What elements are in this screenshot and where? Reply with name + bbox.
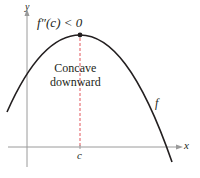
point-c-marker [78,33,83,38]
concavity-label-line2: downward [50,75,101,89]
graph-canvas [0,0,200,178]
function-curve [7,35,172,162]
x-axis-arrow-icon [176,145,183,150]
function-label: f [155,97,158,109]
concavity-figure: y x f″(c) < 0 Concave downward c f [0,0,200,178]
c-label: c [77,150,82,161]
y-axis-label: y [25,2,29,12]
condition-label: f″(c) < 0 [37,16,82,29]
concavity-label: Concave downward [50,61,101,89]
x-axis-label: x [184,140,189,151]
concavity-label-line1: Concave [50,61,101,75]
